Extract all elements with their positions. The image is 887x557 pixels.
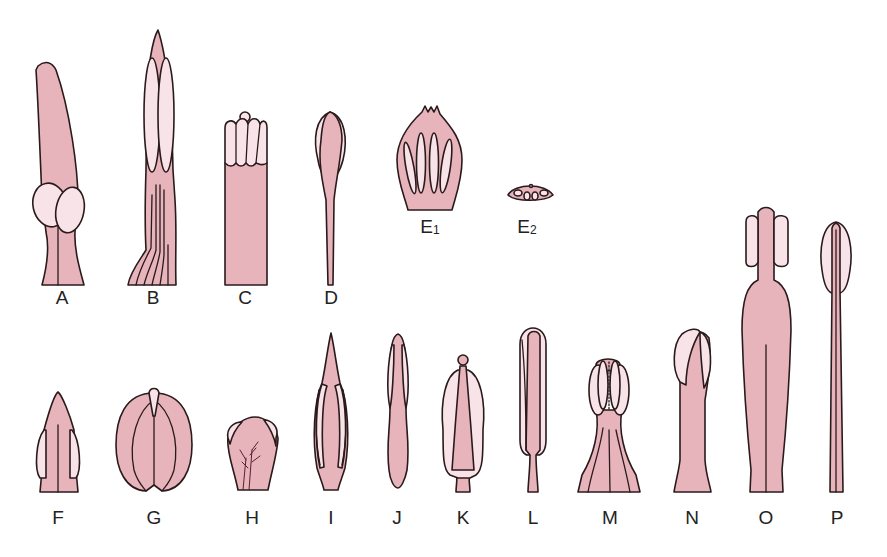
- stamen-I: [314, 333, 347, 490]
- stamen-H: [228, 417, 278, 490]
- stamen-G: [116, 389, 192, 492]
- stamen-L: [520, 328, 546, 492]
- label-G: G: [147, 508, 162, 527]
- label-I: I: [328, 508, 333, 527]
- stamen-P: [821, 222, 851, 492]
- label-M: M: [602, 508, 618, 527]
- stamen-M: [578, 359, 640, 492]
- stamen-J: [388, 334, 408, 488]
- label-B: B: [147, 288, 160, 307]
- label-K: K: [457, 508, 470, 527]
- stamen-E2-transverse-section: [508, 185, 553, 201]
- label-D: D: [324, 288, 338, 307]
- stamen-F: [37, 392, 80, 492]
- label-P: P: [831, 508, 844, 527]
- stamen-O: [742, 208, 791, 493]
- stamen-D: [316, 112, 346, 285]
- stamen-K: [442, 355, 484, 492]
- label-E1: E1: [420, 217, 439, 236]
- stamen-E1-cross-section-front: [397, 106, 462, 210]
- label-H: H: [245, 508, 259, 527]
- label-E2: E2: [517, 217, 536, 236]
- label-F: F: [52, 508, 64, 527]
- label-L: L: [528, 508, 539, 527]
- label-O: O: [759, 508, 774, 527]
- label-A: A: [56, 288, 69, 307]
- stamen-A: [29, 63, 88, 285]
- stamen-diagram: [0, 0, 887, 557]
- stamen-C: [225, 112, 267, 285]
- stamen-B: [128, 30, 176, 285]
- label-C: C: [238, 288, 252, 307]
- label-J: J: [392, 508, 402, 527]
- label-N: N: [685, 508, 699, 527]
- stamen-N: [674, 329, 711, 492]
